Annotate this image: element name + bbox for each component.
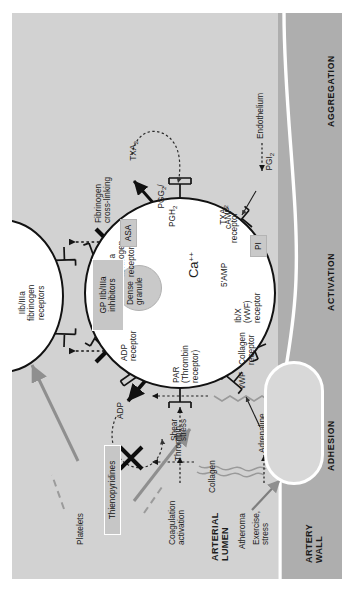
drug-box-asa[interactable]: ASA — [120, 219, 137, 247]
txa2-released-sub: 2 — [132, 141, 139, 144]
dense-granule-label: Dense granule — [126, 277, 145, 305]
platelet-pathway-figure: IIb/IIIa fibrinogen receptors Dense gran… — [12, 13, 342, 579]
pgg2-text: PGG — [156, 190, 166, 208]
pgi2-label: PGI2 — [256, 152, 286, 188]
pgi2-text: PGI — [264, 156, 274, 170]
adp-receptor-label: ADP receptor — [120, 330, 139, 360]
exercise-stress-label: Exercise, stress — [252, 510, 271, 544]
upper-platelet-receptor-label: IIb/IIIa fibrinogen receptors — [18, 284, 46, 320]
phase-adhesion: ADHESION — [326, 420, 336, 471]
phase-aggregation: AGGREGATION — [326, 55, 336, 127]
calcium-label: Ca++ — [172, 252, 216, 307]
shear-stress-label: Shear stress — [170, 418, 189, 440]
drug-box-gp-iibiiia-inhibitors[interactable]: GP IIb/IIIa inhibitors — [92, 259, 124, 331]
collagen-receptor-label: Collagen receptor — [238, 332, 257, 365]
atheroma-label: Atheroma — [238, 513, 247, 549]
txa2-released-label: TXA2 — [120, 141, 150, 179]
rotated-figure-wrapper: IIb/IIIa fibrinogen receptors Dense gran… — [12, 13, 342, 579]
pgh2-sub: 2 — [171, 205, 178, 208]
txa2-released-text: TXA — [128, 144, 138, 160]
collagen-label: Collagen — [208, 460, 217, 493]
adp-label: ADP — [116, 401, 125, 418]
arterial-lumen-label: ARTERIAL LUMEN — [210, 512, 230, 561]
fibrinogen-crosslinking-label: Fibrinogen cross-linking — [94, 176, 113, 222]
camp-label: cAMP — [224, 206, 233, 228]
calcium-text: Ca — [185, 261, 200, 278]
calcium-superscript: ++ — [186, 252, 195, 261]
thienopyridines-label: Thienopyridines — [107, 460, 116, 519]
par-receptor-label: PAR (Thrombin receptor) — [172, 345, 200, 383]
phase-activation: ACTIVATION — [326, 252, 336, 310]
prostaglandin-label: PGG2/ PGH2 — [148, 184, 188, 227]
drug-box-thienopyridines[interactable]: Thienopyridines — [104, 445, 121, 535]
pgi2-sub: 2 — [268, 152, 275, 155]
drug-box-pi[interactable]: PI — [250, 235, 267, 257]
platelets-label: Platelets — [76, 513, 85, 545]
asa-label: ASA — [123, 224, 132, 241]
amp5-label: 5'AMP — [220, 262, 229, 286]
figure-page: IIb/IIIa fibrinogen receptors Dense gran… — [0, 0, 353, 591]
atheroma-plaque — [264, 361, 324, 485]
pi-label: PI — [253, 242, 262, 250]
gp-iibiiia-inhibitors-label: GP IIb/IIIa inhibitors — [98, 276, 117, 313]
ibx-vwf-receptor-label: Ib/X (vWF) receptor — [234, 292, 262, 322]
vwf-label: vWF — [238, 371, 247, 388]
artery-wall-label: ARTERY WALL — [304, 523, 324, 562]
endothelium-label: Endothelium — [256, 92, 265, 138]
coagulation-activation-label: Coagulation activation — [168, 500, 187, 544]
